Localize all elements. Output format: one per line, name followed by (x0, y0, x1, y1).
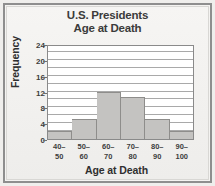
chart-figure: U.S. Presidents Age at Death Frequency 0… (0, 0, 215, 186)
x-axis-tick-label: 40–50 (47, 142, 72, 164)
x-axis-tick-label: 50–60 (72, 142, 97, 164)
chart-title-line-2: Age at Death (0, 22, 215, 35)
histogram-bar (97, 92, 121, 140)
x-axis-tick-label-line: 90– (170, 142, 195, 152)
histogram-bars (48, 46, 193, 139)
x-axis-tick-label: 60–70 (96, 142, 121, 164)
chart-title-line-1: U.S. Presidents (67, 9, 148, 21)
x-axis-title: Age at Death (34, 164, 199, 176)
histogram-bar (145, 119, 169, 139)
histogram-bar (48, 131, 72, 139)
y-axis-tick-mark (43, 140, 47, 141)
y-axis-tick-label: 16 (20, 72, 45, 81)
x-axis-tick-label: 80–90 (145, 142, 170, 164)
x-axis-tick-label-line: 90 (145, 152, 170, 162)
histogram-bar (72, 119, 96, 139)
x-axis-tick-label-line: 70 (96, 152, 121, 162)
y-axis-tick-label: 4 (20, 120, 45, 129)
y-axis-tick-label: 24 (20, 41, 45, 50)
x-axis-tick-labels: 40–5050–6060–7070–8080–9090–100 (47, 142, 194, 164)
x-axis-tick-label-line: 80– (145, 142, 170, 152)
x-axis-tick-label-line: 60 (72, 152, 97, 162)
x-axis-tick-label: 90–100 (170, 142, 195, 164)
y-axis-tick-label: 12 (20, 88, 45, 97)
x-axis-tick-label-line: 50 (47, 152, 72, 162)
histogram-bar (170, 131, 193, 139)
x-axis-tick-label: 70–80 (121, 142, 146, 164)
x-axis-tick-label-line: 60– (96, 142, 121, 152)
chart-title: U.S. Presidents Age at Death (0, 9, 215, 34)
histogram-bar (121, 97, 145, 139)
x-axis-tick-label-line: 100 (170, 152, 195, 162)
x-axis-tick-label-line: 40– (47, 142, 72, 152)
y-axis-tick-label: 0 (20, 136, 45, 145)
y-axis-tick-label: 20 (20, 56, 45, 65)
x-axis-tick-label-line: 70– (121, 142, 146, 152)
plot-area (47, 45, 194, 140)
x-axis-tick-label-line: 50– (72, 142, 97, 152)
x-axis-tick-label-line: 80 (121, 152, 146, 162)
y-axis-tick-label: 8 (20, 104, 45, 113)
y-axis-tick-labels: 04812162024 (20, 40, 45, 145)
